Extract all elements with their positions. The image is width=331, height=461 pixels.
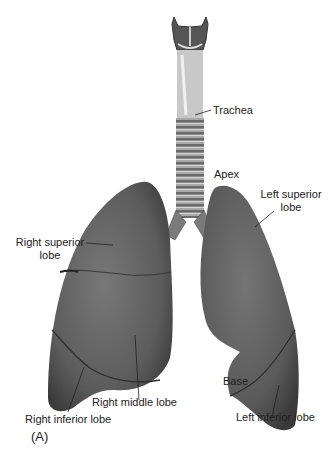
- label-left-superior-lobe-line2: lobe: [256, 201, 326, 214]
- larynx: [172, 17, 208, 50]
- label-right-superior-lobe-line2: lobe: [14, 249, 86, 262]
- label-left-superior-lobe: Left superior lobe: [256, 188, 326, 214]
- label-apex: Apex: [214, 168, 239, 181]
- label-left-inferior-lobe: Left inferior lobe: [236, 411, 315, 424]
- label-right-inferior-lobe: Right inferior lobe: [25, 413, 111, 426]
- label-left-superior-lobe-line1: Left superior: [256, 188, 326, 201]
- left-lung: [200, 186, 298, 430]
- right-lung: [48, 182, 173, 411]
- label-right-superior-lobe: Right superior lobe: [14, 236, 86, 262]
- label-base: Base: [223, 375, 248, 388]
- label-right-middle-lobe: Right middle lobe: [92, 396, 177, 409]
- label-trachea: Trachea: [213, 104, 253, 117]
- label-right-superior-lobe-line1: Right superior: [14, 236, 86, 249]
- trachea: [166, 50, 214, 240]
- panel-label: (A): [31, 430, 48, 443]
- lungs-anatomy-figure: Trachea Apex Left superior lobe Right su…: [0, 0, 331, 461]
- lungs-illustration: [0, 0, 331, 461]
